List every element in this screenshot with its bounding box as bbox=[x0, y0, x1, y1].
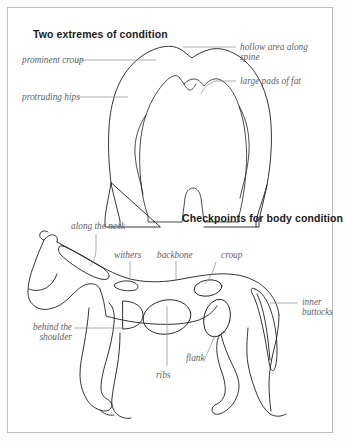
horse-ear-outline bbox=[44, 235, 57, 242]
horse-head-outline bbox=[28, 231, 100, 309]
label-withers: withers bbox=[114, 250, 141, 261]
flank-marker bbox=[200, 296, 234, 339]
horse-belly-line bbox=[100, 289, 217, 324]
horse-muzzle-line bbox=[29, 274, 57, 290]
horse-front-leg-off bbox=[112, 333, 131, 418]
croup-marker bbox=[193, 278, 223, 298]
behind-shoulder-marker bbox=[123, 301, 143, 329]
leader-croup bbox=[205, 262, 216, 284]
hindquarter-outer-outline bbox=[105, 46, 271, 227]
label-behind-the-shoulder-line2: shoulder bbox=[14, 332, 72, 343]
label-prominent-croup: prominent croup bbox=[22, 55, 76, 66]
horse-hind-hoof bbox=[270, 414, 286, 416]
label-croup: croup bbox=[221, 250, 242, 261]
label-protruding-hips: protruding hips bbox=[22, 92, 76, 103]
label-behind-the-shoulder: behind the bbox=[14, 322, 72, 333]
hindquarter-inner-outline bbox=[140, 76, 247, 222]
label-backbone: backbone bbox=[157, 250, 193, 261]
horse-mane-outline bbox=[59, 246, 110, 280]
horse-hindquarter-line bbox=[269, 315, 279, 411]
label-ribs: ribs bbox=[156, 370, 170, 381]
leader-large-pads-elbow bbox=[201, 81, 215, 94]
label-inner-buttocks: inner bbox=[302, 297, 322, 308]
withers-marker bbox=[115, 281, 138, 291]
leader-flank bbox=[204, 335, 215, 360]
label-inner-buttocks-line2: buttocks bbox=[302, 307, 333, 318]
hindquarter-inner-right-crease bbox=[239, 106, 249, 198]
label-large-pads-of-fat: large pads of fat bbox=[240, 76, 301, 87]
horse-tail-outline bbox=[251, 288, 277, 370]
tail-notch bbox=[184, 84, 196, 90]
hindquarter-inner-left-crease bbox=[135, 115, 146, 194]
figure-frame: Two extremes of condition bbox=[7, 7, 333, 433]
horse-front-leg-near bbox=[80, 303, 114, 411]
label-flank: flank bbox=[186, 353, 205, 364]
label-along-the-neck: along the neck bbox=[71, 221, 125, 232]
page-canvas: Two extremes of condition bbox=[0, 0, 346, 441]
section-title-checkpoints: Checkpoints for body condition bbox=[182, 212, 343, 224]
horse-hind-leg-near bbox=[212, 332, 239, 414]
horse-hind-leg-off bbox=[247, 328, 270, 414]
label-hollow-area-spine: hollow area along bbox=[240, 42, 308, 53]
label-hollow-area-spine-line2: spine bbox=[240, 52, 260, 63]
